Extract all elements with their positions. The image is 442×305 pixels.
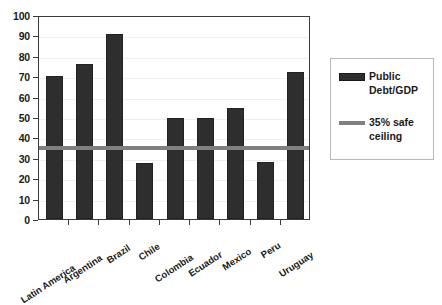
gridline — [39, 37, 309, 38]
y-axis-tickmark — [33, 159, 38, 160]
legend-label-line-1: 35% safe — [369, 116, 414, 128]
y-axis-tickmark — [33, 57, 38, 58]
x-axis-label-uruguay: Uruguay — [309, 228, 347, 258]
y-axis-tick-0: 0 — [0, 215, 30, 225]
x-axis-label-text: Uruguay — [277, 249, 315, 279]
legend-label-public-debt-gdp: Public Debt/GDP — [369, 69, 433, 97]
y-axis-tick-80: 80 — [0, 52, 30, 62]
y-axis-tick-labels: 1009080706050403020100 — [0, 16, 30, 220]
x-axis-tickmark — [68, 220, 69, 225]
legend-label-line-2: Debt/GDP — [369, 84, 418, 96]
y-axis-tick-20: 20 — [0, 174, 30, 184]
bar-chile — [136, 163, 153, 219]
bar-mexico — [227, 108, 244, 219]
y-axis-tickmark — [33, 138, 38, 139]
legend-label-safe-ceiling: 35% safe ceiling — [369, 115, 433, 143]
y-axis-tick-70: 70 — [0, 72, 30, 82]
y-axis-tick-30: 30 — [0, 154, 30, 164]
safe-ceiling-line — [39, 146, 309, 150]
y-axis-tickmark — [33, 200, 38, 201]
x-axis-tickmark — [189, 220, 190, 225]
y-axis-tickmark — [33, 77, 38, 78]
y-axis-tickmark — [33, 16, 38, 17]
legend-swatch-line-icon — [339, 121, 365, 125]
bar-peru — [257, 162, 274, 219]
y-axis-tickmark — [33, 36, 38, 37]
gridline — [39, 58, 309, 59]
y-axis-tickmark — [33, 179, 38, 180]
x-axis-tickmark — [280, 220, 281, 225]
bar-colombia — [167, 118, 184, 219]
y-axis-tick-40: 40 — [0, 133, 30, 143]
x-axis-tickmark — [159, 220, 160, 225]
bar-ecuador — [197, 118, 214, 219]
x-axis-tickmark — [98, 220, 99, 225]
y-axis-tickmark — [33, 98, 38, 99]
y-axis-tick-50: 50 — [0, 113, 30, 123]
chart-legend: Public Debt/GDP 35% safe ceiling — [330, 58, 434, 160]
y-axis-tick-90: 90 — [0, 31, 30, 41]
x-axis-label-chile: Chile — [156, 228, 181, 250]
y-axis-tick-60: 60 — [0, 93, 30, 103]
legend-swatch-bar-icon — [339, 73, 365, 81]
bar-argentina — [76, 64, 93, 219]
x-axis-tickmark — [129, 220, 130, 225]
y-axis-tickmark — [33, 118, 38, 119]
legend-label-line-1: Public — [369, 70, 401, 82]
plot-area — [38, 16, 310, 220]
y-axis-tickmark — [33, 220, 38, 221]
x-axis-tickmark — [219, 220, 220, 225]
x-axis-label-peru: Peru — [276, 228, 300, 249]
y-axis-tick-100: 100 — [0, 11, 30, 21]
bar-brazil — [106, 34, 123, 219]
legend-label-line-2: ceiling — [369, 130, 402, 142]
x-axis-tickmark — [250, 220, 251, 225]
y-axis-tick-10: 10 — [0, 195, 30, 205]
